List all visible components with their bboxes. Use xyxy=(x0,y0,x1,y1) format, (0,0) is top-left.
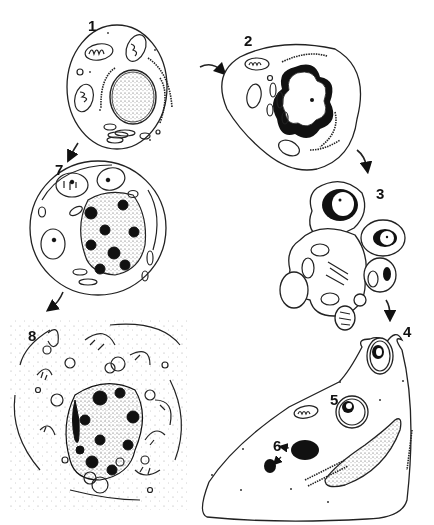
stage-label-1: 1 xyxy=(88,18,96,33)
cell-stage-1 xyxy=(67,25,172,149)
arrow-3-to-4 xyxy=(386,300,390,316)
stage-label-4: 4 xyxy=(403,324,411,339)
stage-label-6: 6 xyxy=(273,438,281,453)
cell-stage-8 xyxy=(10,320,190,510)
arrow-2-to-3 xyxy=(357,150,367,168)
arrow-7-to-8 xyxy=(51,292,63,308)
stage-label-5: 5 xyxy=(330,392,338,407)
stage-label-7: 7 xyxy=(55,162,63,177)
arrow-1-to-7 xyxy=(70,143,78,157)
cell-stage-2 xyxy=(222,45,361,171)
arrow-1-to-2 xyxy=(200,65,222,71)
stage-label-8: 8 xyxy=(28,328,36,343)
cell-stage-7 xyxy=(30,161,166,295)
stage-label-2: 2 xyxy=(244,33,252,48)
cell-stage-3 xyxy=(280,182,405,330)
phagocyte-stage-4-6 xyxy=(202,335,412,521)
stage-label-3: 3 xyxy=(376,186,384,201)
cell-death-diagram xyxy=(0,0,434,525)
